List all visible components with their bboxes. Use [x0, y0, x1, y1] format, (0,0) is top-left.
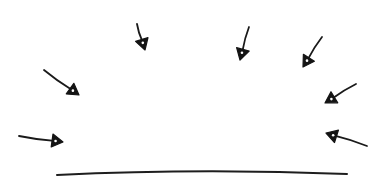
arrowhead-highlight [306, 59, 309, 62]
arrow-mid-right [325, 84, 356, 103]
arrow-shaft [335, 136, 367, 146]
arrowhead-icon [66, 83, 79, 95]
arrow-top-right [303, 37, 322, 67]
arrow-shaft [308, 37, 322, 59]
arrow-top-center [237, 27, 250, 60]
arrow-shaft [137, 24, 142, 41]
arrow-top-left [136, 24, 148, 50]
arrowhead-icon [51, 134, 63, 147]
arrow-shaft [44, 70, 72, 90]
arrowhead-icon [136, 38, 148, 50]
arrow-low-right [326, 130, 367, 146]
arrow-shaft [333, 84, 356, 98]
arrowhead-highlight [141, 42, 144, 45]
surface-line [57, 171, 347, 175]
arrowhead-highlight [241, 51, 244, 54]
arrowhead-highlight [330, 98, 333, 101]
arrow-mid-left [44, 70, 79, 95]
diagram-canvas [0, 0, 385, 188]
arrowhead-icon [237, 48, 250, 60]
arrow-shaft [19, 136, 54, 141]
arrowhead-highlight [332, 134, 335, 137]
arrow-low-left [19, 134, 63, 147]
arrows-group [19, 24, 367, 147]
arrowhead-highlight [54, 140, 57, 143]
arrowhead-icon [325, 92, 338, 103]
arrow-shaft [242, 27, 249, 51]
arrowhead-highlight [72, 89, 75, 92]
arrowhead-icon [326, 130, 338, 142]
